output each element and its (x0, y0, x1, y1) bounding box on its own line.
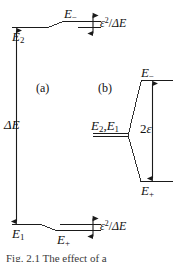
energy-level-diagram: E2 E− ε2/ΔE (a) ΔE E1 E+ ε2/ΔE (b) E− E2… (0, 0, 180, 262)
label-E-minus-b: E− (141, 66, 154, 81)
connector-E1-to-Eplus (41, 225, 56, 231)
label-degenerate-E2-E1: E2,E1 (91, 119, 119, 134)
label-E-plus-b: E+ (141, 184, 154, 199)
diagram-canvas (0, 0, 180, 262)
label-shift-bottom: ε2/ΔE (100, 220, 126, 232)
label-E2: E2 (12, 30, 24, 45)
panel-label-b: (b) (98, 82, 112, 94)
label-E1: E1 (12, 227, 24, 242)
figure-caption: Fig. 2.1 The effect of a (6, 252, 180, 262)
label-E-plus-a: E+ (57, 233, 70, 248)
label-shift-top: ε2/ΔE (100, 17, 126, 29)
connector-split-down (128, 135, 141, 182)
label-E-minus-a: E− (64, 7, 77, 22)
connector-E2-to-Eminus (48, 22, 63, 28)
label-delta-E: ΔE (4, 118, 20, 131)
panel-label-a: (a) (36, 82, 49, 94)
label-two-epsilon: 2ε (140, 122, 152, 135)
